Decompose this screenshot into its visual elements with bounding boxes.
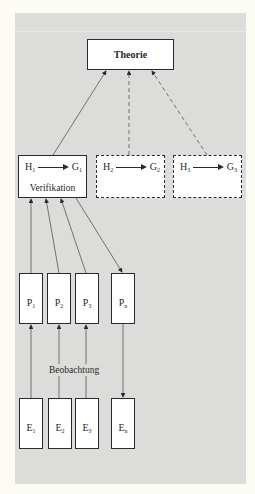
arrow-right-icon — [38, 162, 69, 172]
proposition-box-3: P3 — [75, 273, 99, 324]
experience-label: E2 — [55, 422, 64, 434]
arrow-right-icon — [193, 162, 224, 172]
experience-box-1: E1 — [19, 398, 43, 449]
arrow-h1-to-theory — [53, 71, 106, 155]
experience-box-n: En — [111, 398, 135, 449]
hypothesis-box-3: H3 G3 — [173, 155, 242, 198]
arrow-p2-to-h1 — [46, 199, 59, 273]
hypothesis-label: H1 — [25, 161, 35, 173]
arrow-h1-to-pn — [76, 198, 122, 272]
hypothesis-label: H2 — [103, 161, 113, 173]
generalization-label: G2 — [150, 161, 160, 173]
observation-label: Beobachtung — [49, 365, 99, 375]
proposition-label: P2 — [55, 297, 64, 309]
experience-label: E3 — [82, 422, 91, 434]
proposition-label: P1 — [27, 297, 36, 309]
proposition-box-1: P1 — [19, 273, 43, 324]
generalization-label: G1 — [72, 161, 82, 173]
experience-box-2: E2 — [48, 398, 72, 449]
hypothesis-box-1: H1 G1 Verifikation — [18, 155, 87, 198]
experience-label: E1 — [26, 422, 35, 434]
theory-box: Theorie — [87, 39, 174, 70]
hypothesis-box-2: H2 G2 — [96, 155, 165, 198]
arrow-h3-to-theory — [152, 71, 207, 155]
proposition-label: P3 — [83, 297, 92, 309]
arrow-right-icon — [116, 162, 147, 172]
proposition-box-n: Pn — [111, 273, 135, 324]
theory-label: Theorie — [114, 49, 147, 60]
arrow-p3-to-h1 — [61, 199, 86, 273]
proposition-box-2: P2 — [47, 273, 71, 324]
generalization-label: G3 — [227, 161, 237, 173]
proposition-label: Pn — [119, 297, 128, 309]
verification-label: Verifikation — [19, 183, 86, 193]
experience-box-3: E3 — [75, 398, 99, 449]
experience-label: En — [118, 422, 127, 434]
hypothesis-label: H3 — [180, 161, 190, 173]
